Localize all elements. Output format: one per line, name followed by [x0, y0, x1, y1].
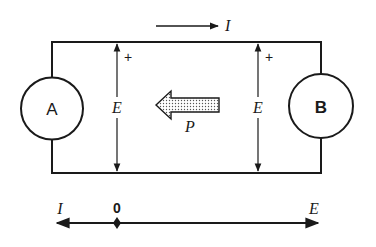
power-flow-label: P — [184, 118, 195, 135]
voltage-polarity-left: + — [124, 49, 132, 65]
source-a-label: A — [46, 100, 58, 119]
top-wire — [52, 42, 321, 77]
bottom-axis: I 0 E — [56, 200, 319, 229]
axis-label-right: E — [308, 200, 319, 217]
source-b: B — [289, 74, 353, 138]
axis-origin-dot-icon — [113, 217, 121, 229]
power-flow: P — [156, 91, 219, 135]
axis-label-left: I — [56, 200, 63, 217]
bottom-wire — [52, 138, 321, 173]
voltage-left: + E — [111, 44, 132, 171]
voltage-polarity-right: + — [265, 49, 273, 65]
source-b-label: B — [315, 98, 327, 117]
circuit-diagram: A B I + E + E P I 0 E — [0, 0, 376, 247]
voltage-right: + E — [252, 44, 273, 171]
axis-origin-label: 0 — [113, 200, 121, 216]
source-a: A — [21, 78, 83, 140]
voltage-label-right: E — [252, 99, 263, 116]
voltage-label-left: E — [111, 99, 122, 116]
power-flow-arrow-icon — [156, 91, 219, 119]
current-label-top: I — [224, 17, 231, 34]
current-arrow-top: I — [156, 17, 231, 34]
